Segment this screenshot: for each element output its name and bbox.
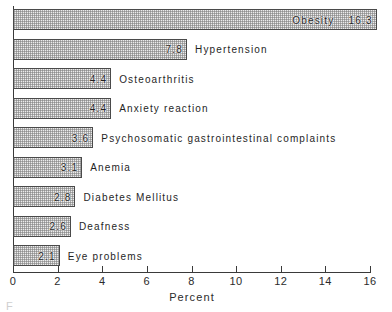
x-tick-label-8: 8 <box>188 275 195 287</box>
x-axis-title-text: Percent <box>169 291 215 303</box>
x-tick-4 <box>102 266 103 272</box>
bar-value-label: 3.1 <box>61 162 79 173</box>
x-tick-label-12: 12 <box>274 275 287 287</box>
bar-category-label: Diabetes Mellitus <box>83 191 179 202</box>
bar-category-label: Osteoarthritis <box>119 73 195 84</box>
bar-row: 16.3Obesity <box>13 9 377 30</box>
bar-category-label: Hypertension <box>195 44 268 55</box>
x-tick-16 <box>370 266 371 272</box>
bar-value-label: 16.3 <box>348 14 372 25</box>
x-axis-line <box>13 272 371 273</box>
bar-value-label: 2.8 <box>54 191 72 202</box>
bar-row: 4.4Osteoarthritis <box>13 68 111 89</box>
bar-row: 7.8Hypertension <box>13 39 187 60</box>
x-tick-label-4: 4 <box>99 275 106 287</box>
plot-area: 0246810121416 16.3Obesity7.8Hypertension… <box>0 0 392 312</box>
bar-row: 3.6Psychosomatic gastrointestinal compla… <box>13 127 93 148</box>
x-tick-0 <box>13 266 14 272</box>
bar-category-label: Anxiety reaction <box>119 103 209 114</box>
bar-value-label: 2.1 <box>38 250 56 261</box>
bar-row: 2.6Deafness <box>13 216 71 237</box>
x-tick-label-6: 6 <box>144 275 151 287</box>
bar-value-label: 4.4 <box>90 73 108 84</box>
bar-value-label: 3.6 <box>72 132 90 143</box>
x-axis-title: Percent <box>0 291 392 303</box>
bar-chart: 0246810121416 16.3Obesity7.8Hypertension… <box>0 0 392 312</box>
bar-category-label: Anemia <box>90 162 131 173</box>
x-tick-8 <box>192 266 193 272</box>
x-tick-label-16: 16 <box>363 275 376 287</box>
bar-value-label: 2.6 <box>49 221 67 232</box>
bar-category-label: Deafness <box>79 221 130 232</box>
caption-sliver: F <box>6 300 14 311</box>
bar-row: 2.1Eye problems <box>13 245 60 266</box>
x-tick-14 <box>325 266 326 272</box>
x-tick-2 <box>58 266 59 272</box>
x-tick-6 <box>147 266 148 272</box>
bar-category-label: Eye problems <box>68 250 143 261</box>
x-tick-label-0: 0 <box>10 275 17 287</box>
bar-row: 2.8Diabetes Mellitus <box>13 186 75 207</box>
x-tick-10 <box>236 266 237 272</box>
bar-value-label: 4.4 <box>90 103 108 114</box>
bar-category-label: Psychosomatic gastrointestinal complaint… <box>101 132 336 143</box>
bar-row: 3.1Anemia <box>13 157 82 178</box>
bar-value-label: 7.8 <box>166 44 184 55</box>
bar-row: 4.4Anxiety reaction <box>13 98 111 119</box>
bar-category-label: Obesity <box>292 14 334 25</box>
x-tick-12 <box>281 266 282 272</box>
x-tick-label-2: 2 <box>54 275 61 287</box>
bar-hypertension <box>13 39 187 60</box>
x-tick-label-14: 14 <box>319 275 332 287</box>
x-tick-label-10: 10 <box>230 275 243 287</box>
